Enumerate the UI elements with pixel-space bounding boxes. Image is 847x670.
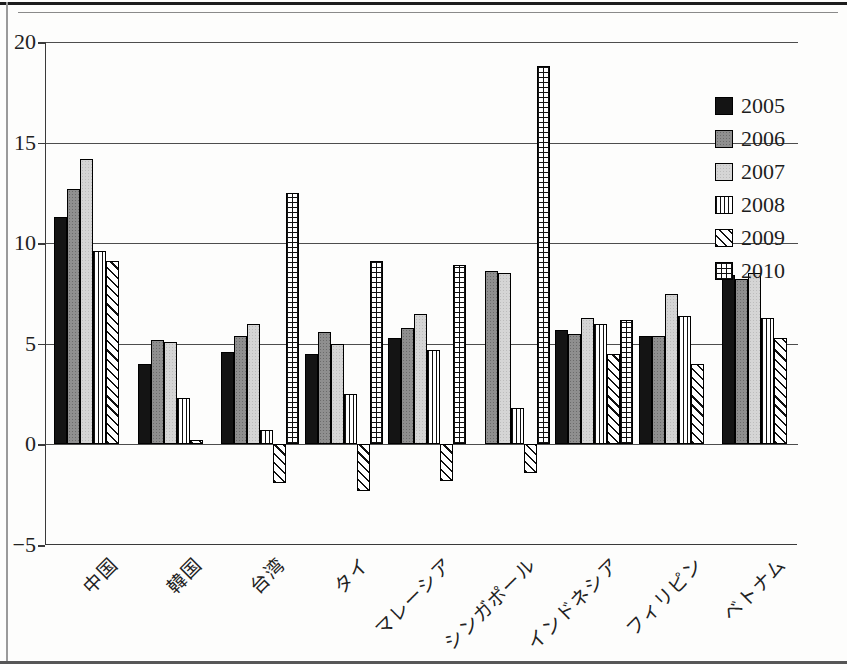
bar-フィリピン-2006 [652,336,665,445]
bar-マレーシア-2009 [440,444,453,480]
bar-インドネシア-2008 [594,324,607,445]
legend-swatch-vertical-stripes [715,196,733,214]
figure-border-bottom [0,661,847,664]
bar-インドネシア-2005 [555,330,568,445]
gridline-20 [46,42,798,43]
bar-マレーシア-2008 [427,350,440,445]
legend-item-2005: 2005 [715,96,785,116]
bar-ベトナム-2009 [774,338,787,445]
bar-韓国-2005 [138,364,151,444]
legend-label: 2005 [741,96,785,116]
bar-フィリピン-2007 [665,294,678,445]
y-tick [38,143,45,145]
bar-マレーシア-2006 [401,328,414,445]
bar-タイ-2006 [318,332,331,445]
legend-label: 2008 [741,195,785,215]
legend-label: 2007 [741,162,785,182]
bar-マレーシア-2007 [414,314,427,445]
bar-ベトナム-2008 [761,318,774,445]
legend-label: 2009 [741,228,785,248]
bar-タイ-2010 [370,261,383,444]
y-tick [38,344,45,346]
y-tick-label: 10 [2,232,36,254]
bar-中国-2009 [106,261,119,444]
bar-台湾-2006 [234,336,247,445]
bar-インドネシア-2007 [581,318,594,445]
bar-シンガポール-2009 [524,444,537,472]
figure-border-top [18,12,838,13]
bar-ベトナム-2006 [735,279,748,444]
bar-ベトナム-2007 [748,273,761,444]
legend-swatch-diagonal-stripes [715,229,733,247]
bar-韓国-2007 [164,342,177,445]
legend-label: 2010 [741,261,785,281]
legend-swatch-halftone-light-gray [715,163,733,181]
bar-シンガポール-2007 [498,273,511,444]
legend: 200520062007200820092010 [715,96,785,281]
bar-韓国-2006 [151,340,164,445]
bar-韓国-2008 [177,398,190,444]
legend-swatch-grid-crosshatch [715,262,733,280]
y-tick [38,444,45,446]
bar-韓国-2009 [190,440,203,444]
bar-中国-2005 [54,217,67,444]
legend-item-2007: 2007 [715,162,785,182]
gridline-10 [46,243,798,244]
bar-中国-2008 [93,251,106,444]
bar-タイ-2008 [344,394,357,444]
plot-area: 200520062007200820092010 [45,42,797,545]
bar-台湾-2005 [221,352,234,445]
bar-中国-2007 [80,159,93,445]
bar-台湾-2010 [286,193,299,445]
bar-インドネシア-2009 [607,354,620,445]
bar-インドネシア-2006 [568,334,581,445]
bar-台湾-2007 [247,324,260,445]
y-tick-label: 0 [2,433,36,455]
y-tick-label: −5 [2,534,36,556]
bar-インドネシア-2010 [620,320,633,445]
page-rule-top [0,2,847,5]
bar-タイ-2009 [357,444,370,490]
bar-中国-2006 [67,189,80,445]
bar-タイ-2005 [305,354,318,445]
bar-台湾-2008 [260,430,273,444]
bar-シンガポール-2006 [485,271,498,444]
bar-フィリピン-2005 [639,336,652,445]
y-tick [38,243,45,245]
gridline-15 [46,143,798,144]
y-tick-label: 15 [2,132,36,154]
legend-item-2006: 2006 [715,129,785,149]
bar-シンガポール-2008 [511,408,524,444]
gridline-0 [46,444,798,445]
bar-フィリピン-2009 [691,364,704,444]
bar-フィリピン-2008 [678,316,691,445]
bar-マレーシア-2010 [453,265,466,444]
y-tick [38,545,45,547]
bar-ベトナム-2005 [722,275,735,444]
y-tick-label: 5 [2,333,36,355]
bar-タイ-2007 [331,344,344,445]
y-tick [38,42,45,44]
legend-swatch-halftone-dark-gray [715,130,733,148]
bar-シンガポール-2010 [537,66,550,444]
legend-item-2009: 2009 [715,228,785,248]
legend-item-2008: 2008 [715,195,785,215]
legend-label: 2006 [741,129,785,149]
bar-マレーシア-2005 [388,338,401,445]
figure: 20151050−5 200520062007200820092010 中国韓国… [0,0,847,670]
legend-item-2010: 2010 [715,261,785,281]
bar-台湾-2009 [273,444,286,482]
legend-swatch-solid-black [715,97,733,115]
y-tick-label: 20 [2,31,36,53]
